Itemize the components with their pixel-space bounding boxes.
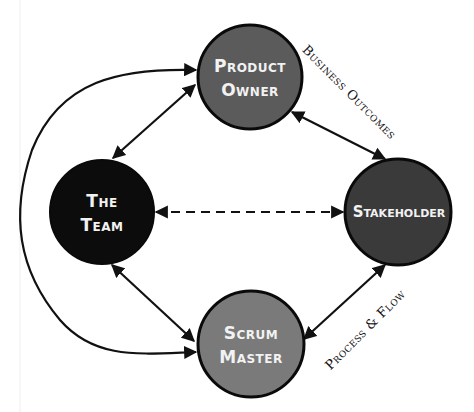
edge-team-sm (112, 265, 194, 341)
product-owner-line1: Product (198, 54, 302, 78)
the-team-line1: The (50, 189, 154, 213)
the-team-line2: Team (50, 213, 154, 237)
scrum-master-line2: Master (199, 345, 303, 369)
stakeholder-line1: Stakeholder (344, 200, 454, 224)
edge-po-team (113, 85, 195, 158)
scrum-master-line1: Scrum (199, 321, 303, 345)
node-stakeholder-label: Stakeholder (344, 200, 454, 224)
diagram-canvas: Product Owner The Team Stakeholder Scrum… (0, 0, 474, 412)
product-owner-line2: Owner (198, 78, 302, 102)
node-the-team-label: The Team (50, 189, 154, 237)
node-scrum-master-label: Scrum Master (199, 321, 303, 369)
node-product-owner-label: Product Owner (198, 54, 302, 102)
